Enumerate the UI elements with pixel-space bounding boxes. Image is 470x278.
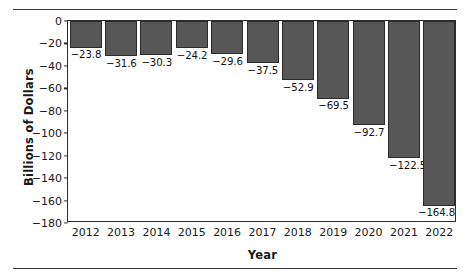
bar[interactable] bbox=[211, 21, 243, 54]
bar-value-label: −164.8 bbox=[418, 207, 455, 218]
x-axis-tick-label: 2019 bbox=[319, 226, 347, 239]
bar-value-label: −24.2 bbox=[177, 50, 208, 61]
figure-bottom-rule bbox=[13, 268, 457, 269]
bar-value-label: −31.6 bbox=[106, 58, 137, 69]
y-axis-tick-label: −160 bbox=[32, 194, 68, 207]
y-axis-tick-label: 0 bbox=[55, 15, 68, 28]
x-axis-tick-label: 2012 bbox=[72, 226, 100, 239]
bar-value-label: −122.5 bbox=[389, 160, 426, 171]
bar[interactable] bbox=[317, 21, 349, 99]
y-axis-tick-label: −60 bbox=[39, 82, 68, 95]
figure: Billions of Dollars 0−20−40−60−80−100−12… bbox=[0, 0, 470, 278]
bar[interactable] bbox=[247, 21, 279, 63]
x-axis-tick-label: 2016 bbox=[213, 226, 241, 239]
x-axis-title: Year bbox=[68, 248, 457, 262]
bar-value-label: −29.6 bbox=[212, 56, 243, 67]
bar-value-label: −69.5 bbox=[318, 100, 349, 111]
bar[interactable] bbox=[388, 21, 420, 158]
x-axis-tick-label: 2015 bbox=[178, 226, 206, 239]
bar[interactable] bbox=[176, 21, 208, 48]
bar-value-label: −30.3 bbox=[141, 57, 172, 68]
y-axis-tick-label: −180 bbox=[32, 217, 68, 230]
bar-value-label: −23.8 bbox=[71, 49, 102, 60]
x-axis-tick-label: 2014 bbox=[142, 226, 170, 239]
bar[interactable] bbox=[140, 21, 172, 55]
bar[interactable] bbox=[423, 21, 455, 206]
x-axis-tick-label: 2021 bbox=[390, 226, 418, 239]
y-axis-tick-label: −40 bbox=[39, 59, 68, 72]
bar[interactable] bbox=[353, 21, 385, 125]
bar-value-label: −52.9 bbox=[283, 82, 314, 93]
plot-surface: 0−20−40−60−80−100−120−140−160−180−23.820… bbox=[68, 21, 455, 221]
figure-top-rule bbox=[13, 9, 457, 10]
bar[interactable] bbox=[70, 21, 102, 48]
y-axis-tick-label: −100 bbox=[32, 127, 68, 140]
x-axis-tick-label: 2020 bbox=[355, 226, 383, 239]
bar-value-label: −92.7 bbox=[354, 127, 385, 138]
bar[interactable] bbox=[282, 21, 314, 80]
y-axis-tick-label: −140 bbox=[32, 172, 68, 185]
x-axis-tick-label: 2022 bbox=[425, 226, 453, 239]
y-axis-tick-label: −80 bbox=[39, 104, 68, 117]
x-axis-tick-label: 2018 bbox=[284, 226, 312, 239]
bar[interactable] bbox=[105, 21, 137, 56]
y-axis-tick-label: −20 bbox=[39, 37, 68, 50]
bar-value-label: −37.5 bbox=[248, 65, 279, 76]
x-axis-tick-label: 2013 bbox=[107, 226, 135, 239]
plot-area: 0−20−40−60−80−100−120−140−160−180−23.820… bbox=[67, 20, 456, 222]
x-axis-tick-label: 2017 bbox=[249, 226, 277, 239]
y-axis-tick-label: −120 bbox=[32, 149, 68, 162]
